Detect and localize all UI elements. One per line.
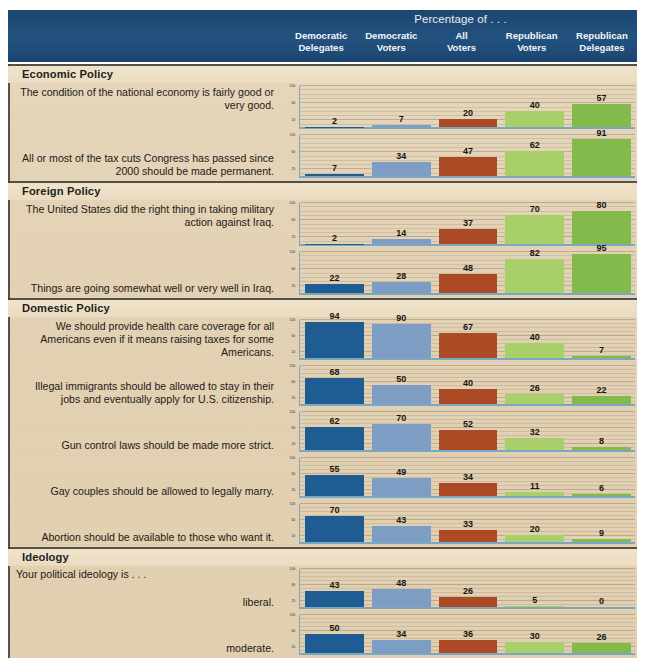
section-title-band: Foreign Policy: [8, 183, 637, 200]
bar-2: [439, 430, 498, 450]
y-axis-tick-label: 100: [285, 318, 295, 322]
bar-value-label: 70: [301, 505, 368, 515]
chart-row: Things are going somewhat well or very w…: [8, 249, 637, 298]
bar-2: [439, 157, 498, 176]
bar-cell: 26: [435, 569, 502, 607]
bar-value-label: 20: [501, 524, 568, 534]
y-axis-tick-label: 20: [285, 645, 295, 649]
bar-2: [439, 530, 498, 543]
bar-cell: 80: [568, 203, 635, 244]
row-statement-label: Things are going somewhat well or very w…: [8, 249, 286, 298]
bar-cell: 2: [301, 203, 368, 244]
chart-row: We should provide health care coverage f…: [8, 317, 637, 363]
bar-2: [439, 119, 498, 127]
x-axis-baseline: [299, 358, 635, 360]
column-header-line2: Delegates: [286, 42, 356, 54]
section-domestic-policy: Domestic PolicyWe should provide health …: [8, 298, 637, 547]
bar-cell: 30: [501, 615, 568, 653]
y-axis-tick-label: 100: [285, 364, 295, 368]
bar-cell: 33: [435, 504, 502, 542]
bar-cell: 34: [368, 135, 435, 176]
row-statement-label: The United States did the right thing in…: [8, 200, 286, 249]
y-axis-tick-label: 20: [285, 235, 295, 239]
bar-value-label: 48: [368, 578, 435, 588]
bar-2: [439, 229, 498, 244]
bar-value-label: 20: [435, 108, 502, 118]
bar-4: [572, 539, 631, 542]
bar-2: [439, 274, 498, 294]
plot-area: 10060205034363026: [296, 615, 635, 655]
bar-value-label: 70: [501, 204, 568, 214]
bar-value-label: 5: [501, 595, 568, 605]
bar-3: [505, 606, 564, 608]
bars-group: 5034363026: [301, 615, 635, 653]
bar-value-label: 7: [568, 345, 635, 355]
column-header-4: RepublicanDelegates: [567, 29, 637, 61]
section-economic-policy: Economic PolicyThe condition of the nati…: [8, 64, 637, 181]
bar-value-label: 14: [368, 228, 435, 238]
bar-2: [439, 640, 498, 654]
bar-value-label: 11: [501, 481, 568, 491]
bars-group: 2228488295: [301, 252, 635, 293]
bars-group: 949067407: [301, 320, 635, 358]
bar-value-label: 26: [435, 586, 502, 596]
y-axis-tick-label: 60: [285, 518, 295, 522]
y-axis-tick-label: 100: [285, 250, 295, 254]
bar-value-label: 34: [368, 151, 435, 161]
bar-3: [505, 394, 564, 404]
header-title: Percentage of . . .: [288, 13, 633, 25]
chart-row: The United States did the right thing in…: [8, 200, 637, 249]
column-header-line1: Republican: [567, 30, 637, 42]
bar-cell: 49: [368, 458, 435, 496]
bar-cell: 48: [368, 569, 435, 607]
bars-group: 554934116: [301, 458, 635, 496]
row-statement-label: Gay couples should be allowed to legally…: [8, 455, 286, 501]
bar-value-label: 6: [568, 483, 635, 493]
x-axis-baseline: [299, 176, 635, 178]
bar-chart-panel: 1006020554934116: [286, 455, 637, 501]
x-axis-baseline: [299, 496, 635, 498]
bar-chart-panel: 10060205034363026: [286, 612, 637, 658]
plot-area: 1006020214377080: [296, 203, 635, 246]
bar-cell: 68: [301, 366, 368, 404]
y-axis-tick-label: 20: [285, 350, 295, 354]
section-title: Ideology: [22, 551, 69, 563]
bar-4: [572, 211, 631, 244]
bar-value-label: 9: [568, 528, 635, 538]
bars-group: 27204057: [301, 86, 635, 127]
column-header-line1: Democratic: [356, 30, 426, 42]
column-header-2: AllVoters: [426, 29, 496, 61]
row-statement-label: moderate.: [8, 612, 286, 658]
column-header-line1: Republican: [497, 30, 567, 42]
chart-row: moderate.10060205034363026: [8, 612, 637, 658]
bar-value-label: 34: [435, 472, 502, 482]
bar-value-label: 91: [568, 128, 635, 138]
section-title-band: Ideology: [8, 549, 637, 566]
bar-3: [505, 111, 564, 128]
bar-cell: 95: [568, 252, 635, 293]
column-header-line1: All: [426, 30, 496, 42]
bar-0: [305, 244, 364, 245]
bar-cell: 40: [501, 320, 568, 358]
y-axis-tick-label: 60: [285, 583, 295, 587]
chart-row: All or most of the tax cuts Congress has…: [8, 132, 637, 181]
bar-4: [572, 447, 631, 450]
bar-value-label: 49: [368, 467, 435, 477]
y-axis-tick-label: 60: [285, 267, 295, 271]
bar-value-label: 57: [568, 93, 635, 103]
bar-value-label: 67: [435, 322, 502, 332]
bar-1: [372, 125, 431, 128]
bar-cell: 7: [301, 135, 368, 176]
bar-value-label: 43: [301, 580, 368, 590]
x-axis-baseline: [299, 404, 635, 406]
bar-3: [505, 642, 564, 654]
bar-value-label: 34: [368, 629, 435, 639]
y-axis-tick-label: 100: [285, 613, 295, 617]
bar-value-label: 36: [435, 629, 502, 639]
bar-chart-panel: 1006020704333209: [286, 501, 637, 547]
bar-value-label: 70: [368, 413, 435, 423]
bar-cell: 9: [568, 504, 635, 542]
y-axis-tick-label: 20: [285, 534, 295, 538]
column-header-line2: Voters: [356, 42, 426, 54]
bar-chart-panel: 100602027204057: [286, 83, 637, 132]
